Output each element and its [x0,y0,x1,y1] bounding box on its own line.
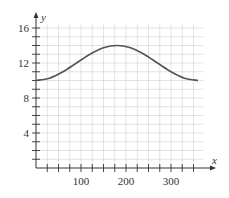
y-axis-label: y [40,11,46,23]
x-tick-labels: 100200300 [73,175,180,187]
y-tick-label: 8 [24,92,30,104]
x-axis-label: x [211,154,217,166]
y-tick-label: 4 [24,127,30,139]
y-tick-label: 12 [18,57,29,69]
line-chart: x y 100200300 481216 [0,0,229,198]
x-tick-label: 200 [118,175,135,187]
x-tick-label: 300 [163,175,180,187]
axes [34,12,217,171]
y-tick-label: 16 [18,22,30,34]
x-tick-label: 100 [73,175,90,187]
y-tick-labels: 481216 [18,22,30,139]
